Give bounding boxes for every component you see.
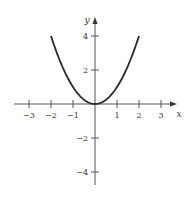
x-tick-label: −2 <box>45 111 57 120</box>
y-tick-label: −4 <box>76 168 88 177</box>
x-tick-label: 1 <box>114 111 119 120</box>
x-axis-arrow-icon <box>170 102 177 107</box>
x-axis-label: x <box>176 109 181 119</box>
y-axis-arrow-icon <box>93 17 98 24</box>
graph-canvas: −3 −2 −1 1 2 3 4 2 −2 −4 x y <box>0 0 189 200</box>
y-tick-label: −2 <box>76 134 88 143</box>
x-tick-label: −1 <box>67 111 79 120</box>
y-axis-label: y <box>83 15 90 25</box>
x-tick-label: −3 <box>23 111 35 120</box>
y-tick-label: 4 <box>83 32 88 41</box>
y-tick-label: 2 <box>83 66 88 75</box>
x-tick-label: 2 <box>136 111 141 120</box>
x-tick-label: 3 <box>158 111 163 120</box>
